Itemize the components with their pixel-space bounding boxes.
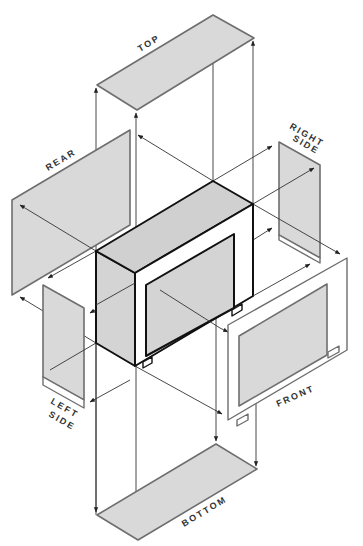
left-side-panel: LEFT SIDE [43,285,84,432]
exploded-diagram: TOP REAR RIGHT SIDE LEFT SIDE [0,0,363,546]
bottom-panel: BOTTOM [97,444,257,540]
diagram-canvas: TOP REAR RIGHT SIDE LEFT SIDE [0,0,363,546]
top-panel: TOP [97,15,254,110]
